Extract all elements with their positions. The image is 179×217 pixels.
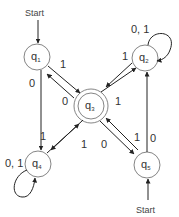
svg-text:0: 0 — [150, 132, 156, 144]
state-q3-accept: q3 — [74, 89, 108, 123]
start-arrow-q1: Start — [25, 8, 45, 43]
state-q4: q4 — [25, 151, 51, 177]
edge-q1-q3: 1 — [48, 58, 80, 93]
svg-text:1: 1 — [60, 58, 66, 70]
edge-q5-q3: 1 — [106, 118, 140, 150]
edge-q5-q2: 0 — [147, 72, 156, 152]
svg-text:0: 0 — [62, 95, 68, 107]
edge-q2-q3: 1 — [106, 50, 132, 87]
svg-text:Start: Start — [136, 205, 156, 215]
edge-q3-q5: 0 — [100, 121, 134, 154]
edge-q3-q1: 0 — [47, 74, 74, 107]
svg-text:1: 1 — [40, 130, 46, 142]
svg-text:0: 0 — [101, 138, 107, 150]
edge-q3-q4: 1 — [51, 120, 87, 150]
svg-text:1: 1 — [115, 95, 121, 107]
svg-text:Start: Start — [25, 8, 45, 18]
svg-text:0: 0 — [29, 77, 35, 89]
state-q2: q2 — [132, 45, 158, 71]
svg-text:1: 1 — [122, 50, 128, 62]
state-q5: q5 — [134, 152, 160, 178]
svg-text:0, 1: 0, 1 — [131, 23, 149, 35]
edge-q4-q3: 1 — [40, 124, 79, 153]
automaton-diagram: q1 q2 q3 q4 q5 Start Start 1 0 0 — [0, 0, 179, 217]
start-arrow-q5: Start — [136, 179, 156, 215]
state-q1: q1 — [24, 44, 50, 70]
svg-text:0, 1: 0, 1 — [5, 157, 23, 169]
svg-text:1: 1 — [134, 131, 140, 143]
svg-text:1: 1 — [81, 138, 87, 150]
